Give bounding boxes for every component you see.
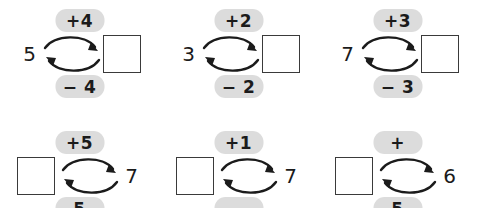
operation-pill-subtract: 5: [373, 197, 422, 208]
operation-pill-subtract: − 2: [214, 75, 263, 98]
problem-row-1: +4 5 − 4 +2 3: [0, 0, 477, 104]
operation-pill-subtract: [214, 197, 263, 208]
operation-pill-add: +1: [214, 131, 263, 154]
operation-pill-subtract: − 4: [55, 75, 104, 98]
operation-pill-add: +2: [214, 9, 263, 32]
answer-box[interactable]: [335, 157, 373, 195]
problem-band: 5: [0, 30, 159, 78]
given-number: 7: [121, 164, 143, 188]
problem-band: 6: [318, 152, 477, 200]
problem-band: 3: [159, 30, 318, 78]
answer-box[interactable]: [17, 157, 55, 195]
problem-cell-3: +3 7 − 3: [318, 0, 477, 104]
given-number: 5: [19, 42, 41, 66]
double-arrow-icon: [218, 153, 280, 199]
operation-pill-add: +: [373, 131, 422, 154]
problem-cell-2: +2 3 − 2: [159, 0, 318, 104]
operation-pill-subtract: 5: [55, 197, 104, 208]
worksheet: +4 5 − 4 +2 3: [0, 0, 477, 208]
problem-cell-1: +4 5 − 4: [0, 0, 159, 104]
answer-box[interactable]: [421, 35, 459, 73]
double-arrow-icon: [200, 31, 262, 77]
answer-box[interactable]: [176, 157, 214, 195]
given-number: 7: [280, 164, 302, 188]
problem-band: 7: [159, 152, 318, 200]
double-arrow-icon: [359, 31, 421, 77]
operation-pill-add: +3: [373, 9, 422, 32]
answer-box[interactable]: [262, 35, 300, 73]
given-number: 7: [337, 42, 359, 66]
problem-row-2: +5 7 5 +1: [0, 110, 477, 208]
operation-pill-subtract: − 3: [373, 75, 422, 98]
problem-cell-4: +5 7 5: [0, 110, 159, 208]
answer-box[interactable]: [103, 35, 141, 73]
double-arrow-icon: [41, 31, 103, 77]
operation-pill-add: +4: [55, 9, 104, 32]
given-number: 3: [178, 42, 200, 66]
problem-band: 7: [318, 30, 477, 78]
problem-cell-6: + 6 5: [318, 110, 477, 208]
problem-band: 7: [0, 152, 159, 200]
given-number: 6: [439, 164, 461, 188]
double-arrow-icon: [59, 153, 121, 199]
double-arrow-icon: [377, 153, 439, 199]
operation-pill-add: +5: [55, 131, 104, 154]
problem-cell-5: +1 7: [159, 110, 318, 208]
